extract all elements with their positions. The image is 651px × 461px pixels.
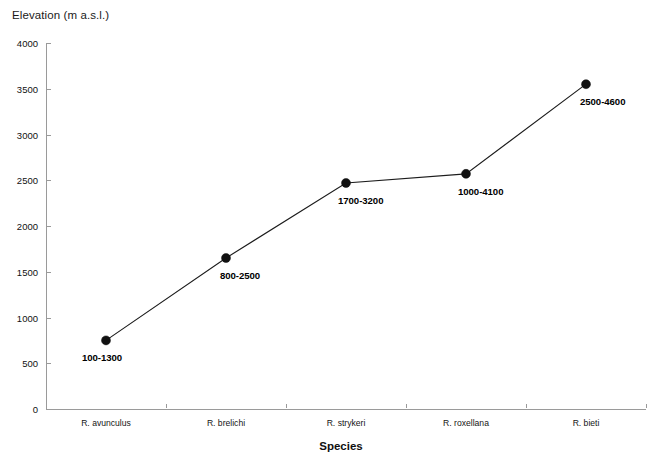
data-point-annotation: 1700-3200: [338, 195, 383, 206]
x-tick-label: R. bieti: [573, 418, 600, 428]
data-point-marker: [222, 254, 231, 263]
y-tick-label: 1000: [0, 312, 38, 323]
x-tick-label: R. strykeri: [327, 418, 366, 428]
x-tick-label: R. brelichi: [207, 418, 245, 428]
y-tick-label: 1500: [0, 266, 38, 277]
x-axis-ticks: [167, 404, 647, 408]
chart-canvas: Elevation (m a.s.l.) 0500100015002000250…: [0, 0, 651, 461]
x-tick-label: R. avunculus: [81, 418, 131, 428]
data-point-annotation: 800-2500: [220, 270, 260, 281]
x-axis-title: Species: [319, 440, 362, 452]
data-point-marker: [582, 80, 591, 89]
x-tick-label: R. roxellana: [443, 418, 489, 428]
y-tick-label: 4000: [0, 38, 38, 49]
elevation-series-line: [106, 84, 586, 340]
y-tick-label: 2500: [0, 175, 38, 186]
y-tick-label: 3000: [0, 129, 38, 140]
y-axis-ticks: [47, 44, 51, 410]
data-point-marker: [462, 169, 471, 178]
y-tick-label: 2000: [0, 221, 38, 232]
y-tick-label: 500: [0, 358, 38, 369]
plot-area: [0, 0, 651, 461]
data-point-annotation: 1000-4100: [458, 186, 503, 197]
data-point-annotation: 2500-4600: [580, 96, 625, 107]
data-point-markers: [102, 80, 591, 345]
y-tick-label: 3500: [0, 83, 38, 94]
data-point-marker: [342, 178, 351, 187]
data-point-marker: [102, 336, 111, 345]
y-tick-label: 0: [0, 404, 38, 415]
data-point-annotation: 100-1300: [82, 352, 122, 363]
